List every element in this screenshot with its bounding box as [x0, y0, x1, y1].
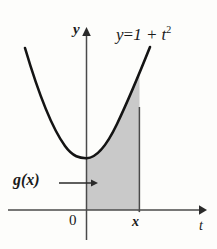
- equation-y-symbol: y: [116, 25, 124, 44]
- t-axis-label: t: [199, 219, 203, 233]
- equation-exponent: 2: [166, 24, 171, 35]
- equation-equals-symbol: =: [124, 25, 134, 44]
- t-axis-arrowhead: [199, 205, 207, 215]
- y-axis-label: y: [73, 22, 80, 37]
- shaded-strip-group: [25, 47, 150, 213]
- parabola-area-figure: [0, 0, 217, 249]
- area-function-label: g(x): [13, 172, 40, 188]
- equation-body: 1 + t: [133, 25, 166, 44]
- curve-equation-label: y=1 + t2: [116, 26, 171, 43]
- parabola-area-fill: [25, 47, 150, 213]
- x-tick-label: x: [132, 215, 139, 229]
- figure-container: y=1 + t2 y t 0 x g(x): [0, 0, 217, 249]
- y-axis-arrowhead: [82, 27, 91, 36]
- origin-tick-label: 0: [69, 213, 77, 228]
